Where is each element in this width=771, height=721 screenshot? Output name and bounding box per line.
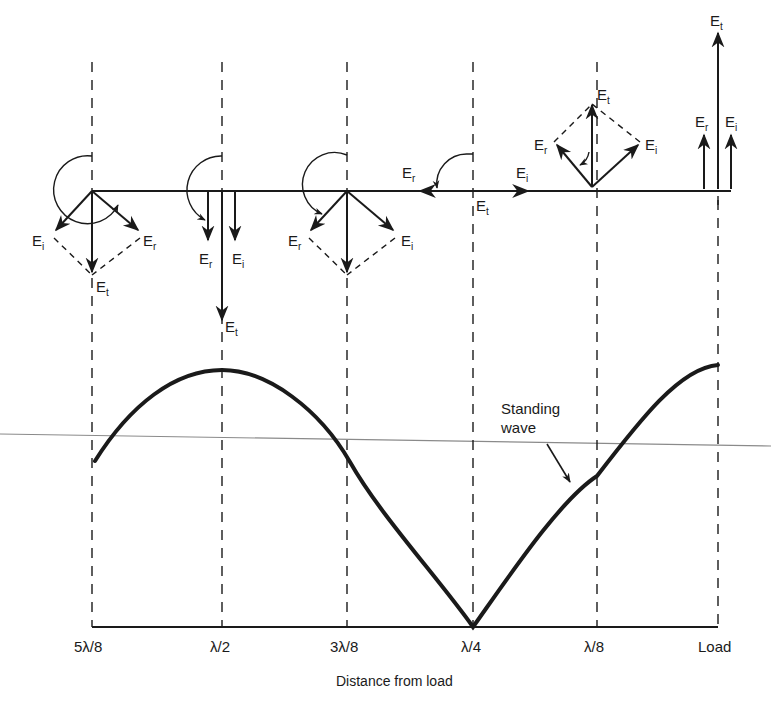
- tick-l8: λ/8: [584, 638, 604, 655]
- phasor-group-l4: [420, 154, 528, 191]
- scan-guide-line: [0, 434, 771, 446]
- label-et: Et: [597, 86, 610, 106]
- label-ei: Ei: [32, 232, 44, 252]
- label-er: Er: [199, 250, 213, 270]
- label-ei: Ei: [725, 113, 737, 133]
- tick-3l8: 3λ/8: [330, 638, 358, 655]
- tick-l2: λ/2: [210, 638, 230, 655]
- label-et: Et: [710, 12, 723, 32]
- standing-wave-diagram: Ei Er Et Er Ei Et Er Ei Er Ei Et Et Er: [0, 0, 771, 721]
- tick-5l8: 5λ/8: [74, 638, 102, 655]
- curve-label-line2: wave: [500, 419, 536, 436]
- phasor-group-3l8: [302, 152, 395, 275]
- rotation-arc-icon: [54, 156, 118, 224]
- reflected-vector: [92, 191, 138, 230]
- standing-wave-curve: [95, 365, 718, 627]
- label-ei: Ei: [645, 136, 657, 156]
- rotation-arc-icon: [580, 152, 589, 165]
- curve-label-line1: Standing: [501, 400, 560, 417]
- x-axis-title: Distance from load: [336, 673, 453, 689]
- rotation-arc-icon: [437, 154, 473, 188]
- phasor-group-5l8: [54, 156, 140, 275]
- label-er: Er: [288, 232, 302, 252]
- label-er: Er: [402, 164, 416, 184]
- label-et: Et: [96, 278, 109, 298]
- label-er: Er: [695, 113, 709, 133]
- incident-vector: [592, 145, 638, 187]
- label-ei: Ei: [516, 164, 528, 184]
- rotation-arc-icon: [302, 152, 347, 214]
- label-et: Et: [476, 197, 489, 217]
- phasor-group-l2: [187, 156, 235, 320]
- label-et: Et: [225, 318, 238, 338]
- label-er: Er: [534, 136, 548, 156]
- curve-pointer-arrow: [547, 444, 570, 482]
- label-er: Er: [143, 232, 157, 252]
- reflected-vector: [557, 145, 592, 187]
- label-ei: Ei: [232, 250, 244, 270]
- label-ei: Ei: [401, 232, 413, 252]
- rotation-arc-icon: [187, 156, 222, 220]
- incident-vector: [347, 191, 393, 230]
- tick-load: Load: [698, 638, 731, 655]
- tick-l4: λ/4: [461, 638, 481, 655]
